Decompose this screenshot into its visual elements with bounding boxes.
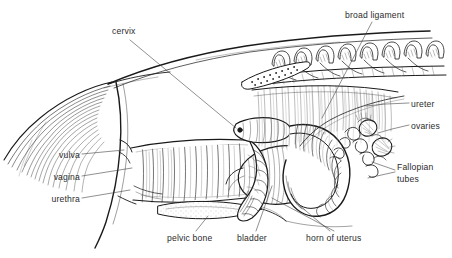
label-broad-ligament: broad ligament [345, 10, 404, 21]
label-bladder: bladder [237, 233, 267, 244]
label-urethra: urethra [38, 194, 80, 205]
diagram-linework [0, 0, 452, 258]
label-vulva: vulva [46, 150, 80, 161]
label-ureter: ureter [411, 99, 434, 110]
label-vagina: vagina [40, 172, 80, 183]
label-cervix: cervix [112, 26, 135, 37]
label-horn-of-uterus: horn of uterus [306, 233, 361, 244]
anatomical-diagram: cervix broad ligament ureter ovaries vul… [0, 0, 452, 258]
label-fallopian-tubes: Fallopian tubes [397, 162, 449, 185]
label-pelvic-bone: pelvic bone [167, 233, 212, 244]
label-ovaries: ovaries [411, 121, 440, 132]
